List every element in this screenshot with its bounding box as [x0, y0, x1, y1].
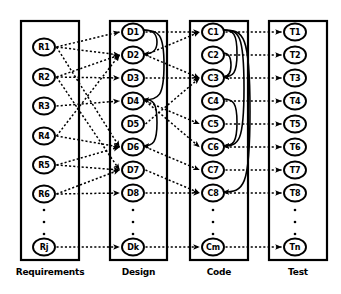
- column-label-requirements: Requirements: [16, 267, 85, 277]
- ellipsis-dot: [43, 209, 46, 212]
- column-label-code: Code: [207, 267, 232, 277]
- intra-link-D1-to-D4: [143, 30, 164, 100]
- node-label-Tn: Tn: [290, 243, 301, 252]
- node-Rj[interactable]: Rj: [33, 239, 55, 256]
- ellipsis-dot: [43, 233, 46, 236]
- node-T1[interactable]: T1: [284, 24, 306, 41]
- node-R4[interactable]: R4: [33, 128, 55, 145]
- ellipsis-dot: [132, 209, 135, 212]
- node-label-D3: D3: [127, 74, 139, 83]
- node-label-R1: R1: [38, 43, 50, 52]
- trace-link-D7-to-C8: [146, 170, 200, 193]
- node-D2[interactable]: D2: [122, 47, 144, 64]
- node-C1[interactable]: C1: [202, 24, 224, 41]
- node-label-T7: T7: [290, 166, 301, 175]
- node-D3[interactable]: D3: [122, 70, 144, 87]
- node-D8[interactable]: D8: [122, 185, 144, 202]
- node-label-T5: T5: [290, 120, 301, 129]
- node-label-T1: T1: [290, 28, 301, 37]
- node-D6[interactable]: D6: [122, 139, 144, 156]
- node-label-C7: C7: [207, 166, 218, 175]
- trace-link-D4-to-C5: [146, 101, 200, 124]
- ellipsis-dot: [294, 221, 297, 224]
- trace-link-D2-to-C1: [146, 32, 200, 55]
- node-D7[interactable]: D7: [122, 162, 144, 179]
- node-label-D6: D6: [127, 143, 139, 152]
- node-label-Rj: Rj: [40, 243, 49, 252]
- trace-link-D6-to-C7: [146, 147, 200, 170]
- trace-link-D2-to-C3: [146, 55, 200, 78]
- node-label-Dk: Dk: [127, 243, 139, 252]
- node-C5[interactable]: C5: [202, 116, 224, 133]
- intra-link-D4-to-D6: [143, 99, 157, 146]
- node-label-C4: C4: [207, 97, 219, 106]
- node-C6[interactable]: C6: [202, 139, 224, 156]
- ellipsis-dot: [43, 221, 46, 224]
- ellipsis-dot: [294, 233, 297, 236]
- node-label-Cm: Cm: [206, 243, 220, 252]
- column-label-design: Design: [122, 267, 156, 277]
- node-C7[interactable]: C7: [202, 162, 224, 179]
- node-label-D5: D5: [127, 120, 139, 129]
- node-label-T6: T6: [290, 143, 301, 152]
- column-boxes: [21, 21, 327, 260]
- ellipsis-dot: [212, 221, 215, 224]
- ellipsis-dot: [294, 209, 297, 212]
- trace-link-D4-to-C6: [146, 101, 200, 147]
- traceability-diagram: R1R2R3R4R5R6RjD1D2D3D4D5D6D7D8DkC1C2C3C4…: [0, 0, 341, 294]
- ellipsis-dot: [212, 209, 215, 212]
- column-labels: RequirementsDesignCodeTest: [16, 267, 309, 277]
- node-label-D4: D4: [127, 97, 139, 106]
- node-label-R6: R6: [38, 190, 50, 199]
- node-label-R2: R2: [38, 73, 49, 82]
- ellipsis-dot: [212, 233, 215, 236]
- intra-link-C1-to-C6: [223, 30, 244, 146]
- node-label-D8: D8: [127, 189, 139, 198]
- node-label-T8: T8: [290, 189, 301, 198]
- node-R1[interactable]: R1: [33, 39, 55, 56]
- node-T2[interactable]: T2: [284, 47, 306, 64]
- node-C2[interactable]: C2: [202, 47, 224, 64]
- node-C3[interactable]: C3: [202, 70, 224, 87]
- node-label-C8: C8: [207, 189, 219, 198]
- node-label-T3: T3: [290, 74, 301, 83]
- node-label-C1: C1: [207, 28, 219, 37]
- node-T7[interactable]: T7: [284, 162, 306, 179]
- node-R5[interactable]: R5: [33, 157, 55, 174]
- node-C8[interactable]: C8: [202, 185, 224, 202]
- node-Dk[interactable]: Dk: [122, 239, 144, 256]
- diagram-canvas: R1R2R3R4R5R6RjD1D2D3D4D5D6D7D8DkC1C2C3C4…: [0, 0, 341, 294]
- node-label-C3: C3: [207, 74, 218, 83]
- ellipsis-dot: [132, 221, 135, 224]
- trace-link-D5-to-C3: [146, 78, 200, 124]
- node-label-D7: D7: [127, 166, 139, 175]
- node-Tn[interactable]: Tn: [284, 239, 306, 256]
- node-D1[interactable]: D1: [122, 24, 144, 41]
- node-T3[interactable]: T3: [284, 70, 306, 87]
- ellipsis-dot: [132, 233, 135, 236]
- node-label-C2: C2: [207, 51, 218, 60]
- node-D5[interactable]: D5: [122, 116, 144, 133]
- node-label-D1: D1: [127, 28, 139, 37]
- node-label-R4: R4: [38, 132, 50, 141]
- node-label-R3: R3: [38, 102, 49, 111]
- node-T8[interactable]: T8: [284, 185, 306, 202]
- node-C4[interactable]: C4: [202, 93, 224, 110]
- node-T5[interactable]: T5: [284, 116, 306, 133]
- node-D4[interactable]: D4: [122, 93, 144, 110]
- node-label-R5: R5: [38, 161, 50, 170]
- node-label-C5: C5: [207, 120, 219, 129]
- node-R3[interactable]: R3: [33, 98, 55, 115]
- column-label-test: Test: [288, 267, 309, 277]
- node-label-T4: T4: [290, 97, 301, 106]
- node-R6[interactable]: R6: [33, 186, 55, 203]
- node-T6[interactable]: T6: [284, 139, 306, 156]
- node-T4[interactable]: T4: [284, 93, 306, 110]
- node-R2[interactable]: R2: [33, 69, 55, 86]
- node-Cm[interactable]: Cm: [202, 239, 224, 256]
- node-label-T2: T2: [290, 51, 301, 60]
- intra-link-C4-to-C6: [223, 99, 237, 146]
- node-label-D2: D2: [127, 51, 139, 60]
- node-label-C6: C6: [207, 143, 219, 152]
